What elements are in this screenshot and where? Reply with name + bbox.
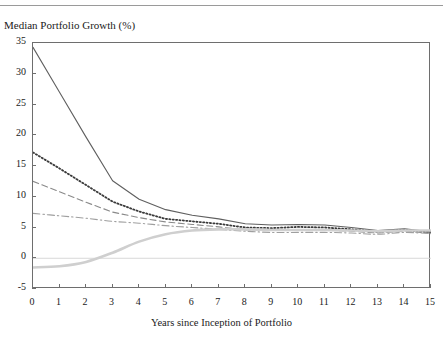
y-tick-label: 10 xyxy=(2,189,26,200)
x-tick-label: 13 xyxy=(367,296,387,307)
x-tick-mark xyxy=(85,284,86,288)
chart-svg xyxy=(33,43,431,289)
x-tick-mark xyxy=(403,284,404,288)
y-tick-mark xyxy=(32,288,36,289)
series-dotted-line xyxy=(33,152,431,232)
y-tick-mark xyxy=(32,165,36,166)
header-rule xyxy=(0,5,443,6)
x-tick-label: 8 xyxy=(234,296,254,307)
series-thick-light-line xyxy=(33,229,431,267)
x-tick-label: 14 xyxy=(393,296,413,307)
x-tick-label: 9 xyxy=(261,296,281,307)
x-tick-label: 1 xyxy=(49,296,69,307)
y-tick-label: 25 xyxy=(2,97,26,108)
x-tick-mark xyxy=(271,284,272,288)
x-tick-label: 4 xyxy=(128,296,148,307)
x-tick-mark xyxy=(350,284,351,288)
x-tick-mark xyxy=(32,284,33,288)
x-tick-mark xyxy=(165,284,166,288)
y-tick-label: 30 xyxy=(2,66,26,77)
x-tick-mark xyxy=(377,284,378,288)
x-tick-label: 15 xyxy=(420,296,440,307)
y-tick-mark xyxy=(32,134,36,135)
y-axis-label: Median Portfolio Growth (%) xyxy=(4,19,135,31)
y-tick-mark xyxy=(32,73,36,74)
x-tick-mark xyxy=(112,284,113,288)
x-tick-label: 12 xyxy=(340,296,360,307)
x-tick-mark xyxy=(218,284,219,288)
y-tick-mark xyxy=(32,42,36,43)
y-tick-label: 15 xyxy=(2,158,26,169)
x-tick-mark xyxy=(297,284,298,288)
x-tick-mark xyxy=(430,284,431,288)
x-tick-label: 7 xyxy=(208,296,228,307)
plot-area xyxy=(32,42,430,288)
x-tick-mark xyxy=(59,284,60,288)
y-tick-label: 0 xyxy=(2,250,26,261)
y-tick-label: 5 xyxy=(2,220,26,231)
y-tick-label: 35 xyxy=(2,35,26,46)
x-tick-label: 0 xyxy=(22,296,42,307)
x-tick-mark xyxy=(244,284,245,288)
x-tick-mark xyxy=(191,284,192,288)
x-tick-mark xyxy=(324,284,325,288)
x-tick-label: 5 xyxy=(155,296,175,307)
x-tick-label: 10 xyxy=(287,296,307,307)
x-tick-mark xyxy=(138,284,139,288)
chart-page: Median Portfolio Growth (%) 353025201510… xyxy=(0,0,443,345)
y-tick-label: 20 xyxy=(2,127,26,138)
page-running-header xyxy=(0,0,443,3)
y-tick-mark xyxy=(32,104,36,105)
y-tick-mark xyxy=(32,196,36,197)
series-paths xyxy=(33,47,431,267)
x-tick-label: 2 xyxy=(75,296,95,307)
y-tick-mark xyxy=(32,227,36,228)
y-tick-mark xyxy=(32,257,36,258)
x-tick-label: 3 xyxy=(102,296,122,307)
x-tick-label: 11 xyxy=(314,296,334,307)
series-solid-line xyxy=(33,47,431,232)
y-tick-label: -5 xyxy=(2,281,26,292)
x-axis-label: Years since Inception of Portfolio xyxy=(0,317,443,328)
x-tick-label: 6 xyxy=(181,296,201,307)
